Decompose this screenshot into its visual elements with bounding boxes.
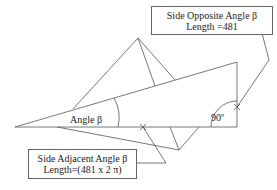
upper-callout-line-1 (73, 38, 138, 109)
right-angle-label: 90º (211, 112, 224, 123)
adjacent-side-title: Side Adjacent Angle β (29, 153, 136, 164)
adjacent-side-box: Side Adjacent Angle β Length=(481 x 2 π) (28, 149, 137, 179)
adjacent-side-length: Length=(481 x 2 π) (29, 164, 136, 175)
lower-line-3 (179, 127, 199, 150)
lower-line-2 (170, 127, 179, 150)
opposite-leader-line (237, 33, 269, 107)
opposite-side-title: Side Opposite Angle β (152, 10, 272, 21)
lower-line-1 (57, 127, 179, 150)
lower-line-4 (143, 127, 166, 163)
upper-callout-line-2 (138, 38, 175, 80)
opposite-side-length: Length =481 (152, 21, 272, 32)
angle-beta-label: Angle β (70, 114, 102, 125)
upper-callout-line-3 (138, 38, 155, 86)
opposite-side-box: Side Opposite Angle β Length =481 (151, 6, 273, 35)
main-triangle (15, 62, 237, 127)
angle-beta-arc (114, 98, 119, 127)
